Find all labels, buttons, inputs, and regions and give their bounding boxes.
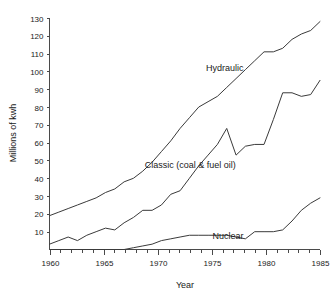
- x-tick-label: 1985: [312, 259, 330, 268]
- y-axis-title-label: Millions of kwh: [8, 104, 18, 163]
- x-tick-label: 1970: [150, 259, 168, 268]
- y-tick-label: 60: [35, 139, 44, 148]
- y-tick-label: 110: [31, 50, 44, 59]
- x-axis-ticks: 196019651970197519801985: [42, 250, 330, 268]
- series-annotations: HydraulicClassic (coal & fuel oil)Nuclea…: [145, 63, 244, 240]
- x-tick-label: 1965: [96, 259, 114, 268]
- y-tick-label: 130: [30, 15, 44, 24]
- y-tick-label: 70: [35, 121, 44, 130]
- series-lines: [50, 22, 321, 250]
- series-annotation-label: Classic (coal & fuel oil): [145, 160, 236, 170]
- x-tick-label: 1980: [258, 259, 276, 268]
- y-tick-label: 90: [35, 86, 44, 95]
- y-tick-label: 100: [30, 68, 44, 77]
- y-tick-label: 120: [30, 32, 44, 41]
- y-tick-label: 40: [35, 175, 44, 184]
- x-tick-label: 1975: [204, 259, 222, 268]
- y-tick-label: 50: [35, 157, 44, 166]
- y-tick-label: 10: [35, 228, 44, 237]
- series-annotation-label: Hydraulic: [206, 63, 244, 73]
- series-annotation-label: Nuclear: [212, 231, 243, 241]
- chart-container: Millions of kwh 102030405060708090100110…: [0, 0, 334, 296]
- series-line-nuclear: [50, 198, 321, 250]
- line-chart: Millions of kwh 102030405060708090100110…: [0, 0, 334, 296]
- y-tick-label: 80: [35, 104, 44, 113]
- x-axis-title-label: Year: [176, 280, 194, 290]
- y-tick-label: 30: [35, 193, 44, 202]
- y-tick-label: 20: [35, 210, 44, 219]
- y-axis-title: Millions of kwh: [8, 104, 18, 163]
- y-axis-ticks: 102030405060708090100110120130: [30, 15, 49, 238]
- series-line-hydraulic: [50, 22, 321, 216]
- x-tick-label: 1960: [42, 259, 60, 268]
